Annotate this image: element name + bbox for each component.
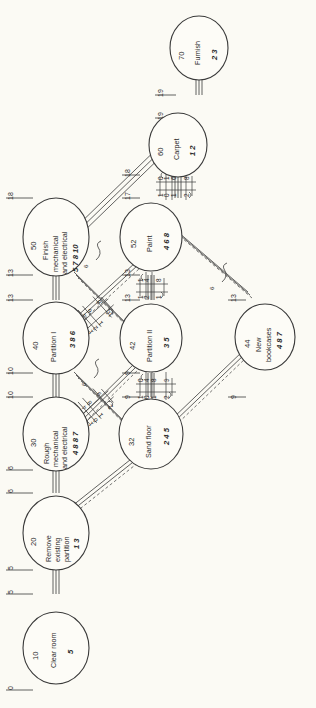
cell-s-r1-c3: 2 — [163, 395, 170, 399]
cell-s-r0-c1: 4 — [143, 378, 150, 382]
node-30-name-3: and electrical — [60, 426, 69, 469]
node-60-duration: 1 2 — [188, 145, 197, 156]
cell-s-r1-c1: 0 — [143, 395, 150, 399]
node-50-duration: 5 7 8 10 — [71, 244, 80, 272]
node-52-paint[interactable]: 52 Paint 4 6 8 — [120, 203, 182, 271]
node-10-name: Clear room — [49, 632, 58, 668]
cell-p-r1-c1: 0 — [163, 193, 170, 197]
time-axis-labels: 0 5 5 6 6 10 10 13 13 18 — [7, 192, 14, 690]
node-50-name-3: and electrical — [60, 231, 69, 274]
cell-s-r0-c2: 8 — [150, 378, 157, 382]
cell-s-r1-c2: 1 — [150, 395, 157, 399]
node-52-name: Paint — [145, 236, 154, 252]
diagram-svg: 0 5 5 6 6 10 10 13 13 18 9 9 13 13 17 18… — [0, 0, 316, 708]
node-52-id: 52 — [129, 240, 138, 248]
annotation-2: 6 — [208, 286, 215, 290]
node-32-duration: 2 4 5 — [162, 427, 171, 446]
cluster-sandfloor: 0 4 8 9 1 0 1 2 — [136, 372, 176, 400]
cell-p-r0-c1: 1 — [163, 176, 170, 180]
node-70-furnish[interactable]: 70 Furnish 2 3 — [170, 16, 228, 80]
node-32-name: Sand floor — [144, 425, 153, 458]
node-50-id: 50 — [29, 242, 38, 250]
node-40-id: 40 — [31, 342, 40, 350]
node-60-id: 60 — [156, 148, 165, 156]
node-70-name: Furnish — [193, 41, 202, 65]
axis-label-4: 6 — [7, 466, 14, 470]
annotation-1: 6 — [80, 382, 87, 386]
node-30-id: 30 — [29, 439, 38, 447]
node-10-id: 10 — [31, 652, 40, 660]
axis-label-10: 9 — [124, 395, 131, 399]
node-40-duration: 3 8 6 — [68, 330, 77, 348]
node-50-finish-mechanical-and-electrical[interactable]: 50 Finish mechanical and electrical 5 7 … — [23, 177, 89, 276]
axis-label-7: 13 — [7, 294, 14, 302]
axis-label-2: 5 — [7, 566, 14, 570]
axis-label-12: 13 — [124, 294, 131, 302]
node-20-id: 20 — [29, 538, 38, 546]
node-44-new-bookcases[interactable]: 44 New bookcases 4 8 7 New bookcases — [235, 304, 295, 370]
node-60-carpet[interactable]: 60 Carpet 1 2 — [149, 113, 207, 177]
axis-label-5: 10 — [7, 391, 14, 399]
node-50-name-1: Finish — [41, 241, 50, 260]
node-70-duration: 2 3 — [210, 49, 219, 61]
node-32-sand-floor[interactable]: 32 Sand floor 2 4 5 — [119, 399, 183, 469]
axis-label-6: 10 — [7, 367, 14, 375]
axis-label-19: 19 — [157, 89, 164, 97]
axis-label-8: 13 — [7, 269, 14, 277]
node-42-name: Partition II — [145, 330, 154, 362]
cell-p-r1-c3: 2 — [183, 193, 190, 197]
node-44-id: 44 — [243, 340, 252, 348]
network-diagram-canvas: 0 5 5 6 6 10 10 13 13 18 9 9 13 13 17 18… — [0, 0, 316, 708]
axis-label-15: 18 — [124, 169, 131, 177]
cell-a-r1-c2: 1 — [96, 320, 104, 328]
cell-q-r0-c2: 8 — [155, 278, 162, 282]
node-20-remove-existing-partition[interactable]: 20 Remove existing partition 1 3 Remove … — [23, 490, 89, 570]
node-40-name: Partition I — [49, 332, 58, 362]
node-44-duration: 4 8 7 — [275, 331, 284, 350]
cell-q-r0-c1: 4 — [143, 278, 150, 282]
node-32-id: 32 — [127, 438, 136, 446]
cell-p-r1-c2: 1 — [170, 193, 177, 197]
cluster-partition2: 1 4 8 1 2 1 — [136, 272, 168, 300]
node-42-id: 42 — [128, 342, 137, 350]
axis-label-0: 0 — [7, 686, 14, 690]
axis-label-17: 9 — [230, 395, 237, 399]
node-42-duration: 3 5 — [162, 337, 171, 348]
node-60-name: Carpet — [172, 138, 181, 160]
annotation-0: 6 — [82, 264, 89, 268]
axis-label-9: 18 — [7, 192, 14, 200]
node-52-duration: 4 6 8 — [162, 232, 171, 251]
node-40-partition-1[interactable]: 40 Partition I 3 8 6 — [23, 302, 89, 374]
axis-label-3: 6 — [7, 489, 14, 493]
axis-label-1: 5 — [7, 590, 14, 594]
node-42-partition-2[interactable]: 42 Partition II 3 5 — [120, 304, 182, 372]
node-20-duration: 1 3 — [72, 538, 81, 549]
node-30-duration: 4 8 8 7 — [71, 431, 80, 456]
node-10-clear-room[interactable]: 10 Clear room 5 — [23, 612, 89, 684]
cell-q-r1-c2: 1 — [155, 295, 162, 299]
cell-s-r0-c3: 9 — [163, 378, 170, 382]
node-20-name-3: partition — [62, 536, 71, 562]
cell-q-r1-c1: 2 — [143, 295, 150, 299]
axis-label-16: 13 — [230, 294, 237, 302]
cell-b-r1-c2: 1 — [96, 412, 104, 420]
node-70-id: 70 — [177, 52, 186, 60]
axis-label-14: 17 — [124, 192, 131, 200]
